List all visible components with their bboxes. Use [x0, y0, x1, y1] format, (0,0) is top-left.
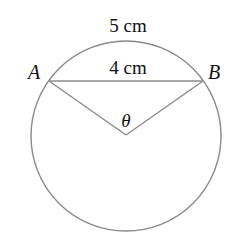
point-b-label: B: [208, 61, 220, 83]
radius-oa: [49, 81, 126, 135]
circle-sector-diagram: 5 cm 4 cm A B θ: [0, 0, 233, 240]
chord-length-label: 4 cm: [109, 57, 147, 78]
radius-ob: [126, 81, 203, 135]
diagram-canvas: 5 cm 4 cm A B θ: [0, 0, 233, 240]
point-a-label: A: [26, 61, 41, 83]
arc-length-label: 5 cm: [109, 15, 147, 36]
angle-theta-label: θ: [121, 110, 130, 131]
